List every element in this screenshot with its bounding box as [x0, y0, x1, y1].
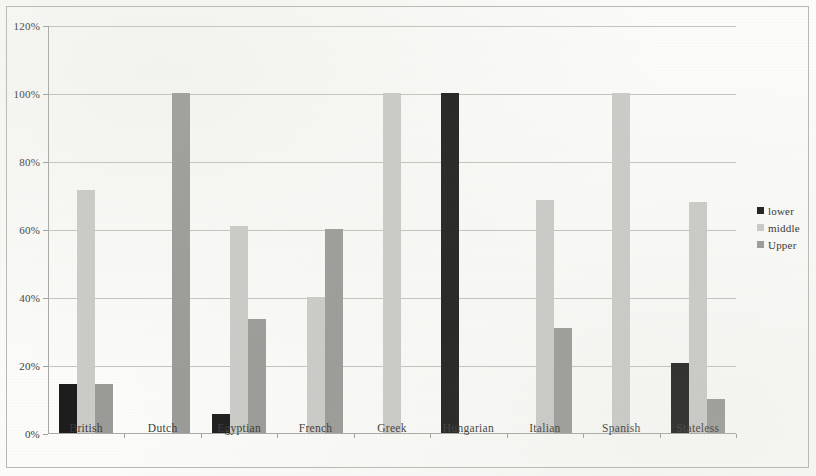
y-axis-tick-label: 40% — [19, 292, 40, 304]
bar-group — [48, 25, 124, 433]
bar-middle — [307, 297, 325, 433]
bar-group — [583, 25, 659, 433]
bar-middle — [689, 202, 707, 433]
bar-group — [277, 25, 353, 433]
y-axis-tick-label: 20% — [19, 360, 40, 372]
legend-label: middle — [768, 222, 800, 234]
x-axis-label-hungarian: Hungarian — [443, 422, 494, 434]
x-axis-tick — [277, 434, 278, 438]
x-axis-tick — [201, 434, 202, 438]
legend-swatch-icon — [757, 224, 764, 231]
bar-lower — [441, 93, 459, 433]
bar-middle — [383, 93, 401, 433]
bar-middle — [612, 93, 630, 433]
y-axis-tick-label: 60% — [19, 224, 40, 236]
bar-group — [507, 25, 583, 433]
x-axis-tick — [660, 434, 661, 438]
x-axis-label-french: French — [299, 422, 333, 434]
bar-chart: 0%20%40%60%80%100%120% BritishDutchEgypt… — [0, 0, 816, 476]
x-axis-label-egyptian: Egyptian — [217, 422, 261, 434]
bar-upper — [325, 229, 343, 433]
legend-item-lower[interactable]: lower — [757, 204, 800, 217]
bar-upper — [172, 93, 190, 433]
bar-group — [354, 25, 430, 433]
legend-item-middle[interactable]: middle — [757, 221, 800, 234]
y-axis-tick-label: 80% — [19, 156, 40, 168]
bar-middle — [536, 200, 554, 433]
legend-swatch-icon — [757, 241, 764, 248]
x-axis-label-dutch: Dutch — [148, 422, 178, 434]
chart-page: 0%20%40%60%80%100%120% BritishDutchEgypt… — [0, 0, 816, 476]
bar-middle — [230, 226, 248, 433]
x-axis-label-spanish: Spanish — [602, 422, 641, 434]
chart-legend: lowermiddleUpper — [757, 204, 800, 255]
legend-swatch-icon — [757, 207, 764, 214]
x-axis-tick — [124, 434, 125, 438]
legend-item-upper[interactable]: Upper — [757, 238, 800, 251]
x-axis-tick — [736, 434, 737, 438]
bar-group — [660, 25, 736, 433]
y-axis-tick — [43, 434, 48, 435]
bar-upper — [554, 328, 572, 433]
x-axis-tick — [354, 434, 355, 438]
bar-group — [430, 25, 506, 433]
y-axis-tick-label: 120% — [14, 20, 40, 32]
x-axis-tick — [507, 434, 508, 438]
y-axis-tick-label: 0% — [25, 428, 40, 440]
bar-group — [201, 25, 277, 433]
legend-label: lower — [768, 205, 794, 217]
x-axis-label-greek: Greek — [377, 422, 407, 434]
x-axis-label-stateless: Stateless — [676, 422, 719, 434]
plot-area: 0%20%40%60%80%100%120% — [48, 26, 736, 434]
x-axis-label-italian: Italian — [529, 422, 560, 434]
x-axis-tick — [430, 434, 431, 438]
y-axis-tick-label: 100% — [14, 88, 40, 100]
bar-group — [124, 25, 200, 433]
legend-label: Upper — [768, 239, 797, 251]
x-axis-tick — [583, 434, 584, 438]
bar-upper — [248, 319, 266, 433]
x-axis-label-british: British — [70, 422, 103, 434]
bar-middle — [77, 190, 95, 433]
